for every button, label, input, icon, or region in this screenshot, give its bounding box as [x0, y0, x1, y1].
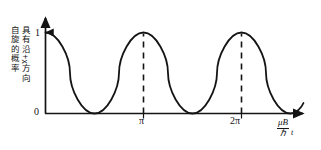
- y-axis-label-column-left: 自旋的概率: [8, 26, 19, 73]
- figure-container: 具有沿+x方向 自旋的概率 1 0 π 2π μB ℏ t: [0, 0, 321, 150]
- x-axis-label-fraction: μB ℏ: [277, 118, 289, 138]
- y-tick-label-1: 1: [35, 27, 40, 38]
- x-axis-label-denominator: ℏ: [279, 129, 287, 139]
- x-axis-label-numerator: μB: [277, 118, 289, 128]
- x-axis-label: μB ℏ t: [277, 118, 293, 138]
- y-tick-label-0: 0: [34, 106, 39, 117]
- plot-canvas: [0, 0, 321, 150]
- probability-curve: [46, 33, 304, 114]
- x-axis-label-variable: t: [291, 128, 293, 138]
- x-tick-label-2pi: 2π: [230, 115, 240, 126]
- y-axis-label: 具有沿+x方向 自旋的概率: [4, 26, 30, 118]
- x-tick-label-pi: π: [139, 115, 144, 126]
- y-axis-label-column-right: 具有沿+x方向: [19, 26, 30, 83]
